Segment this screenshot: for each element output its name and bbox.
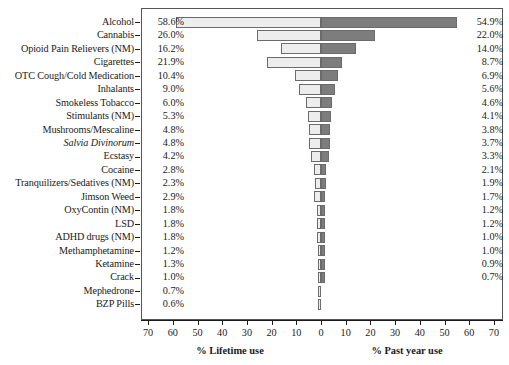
category-label: Ketamine — [0, 259, 134, 269]
bar-past-year-use — [321, 57, 342, 68]
lifetime-use-value: 1.3% — [142, 259, 184, 269]
lifetime-use-value: 1.8% — [142, 232, 184, 242]
category-tick — [135, 103, 140, 104]
category-tick — [135, 22, 140, 23]
lifetime-use-value: 4.8% — [142, 138, 184, 148]
past-year-use-value: 22.0% — [461, 30, 503, 40]
category-tick — [135, 237, 140, 238]
category-tick — [135, 62, 140, 63]
category-label: Cannabis — [0, 30, 134, 40]
category-label: Cocaine — [0, 165, 134, 175]
x-axis-tick — [321, 320, 322, 325]
past-year-use-value: 2.1% — [461, 165, 503, 175]
bar-lifetime-use — [176, 17, 321, 28]
bar-past-year-use — [321, 138, 330, 149]
past-year-use-value: 8.7% — [461, 57, 503, 67]
category-label: BZP Pills — [0, 299, 134, 309]
category-label: Mushrooms/Mescaline — [0, 125, 134, 135]
category-tick — [135, 76, 140, 77]
lifetime-use-value: 0.7% — [142, 286, 184, 296]
x-axis-tick — [296, 320, 297, 325]
x-axis-line — [141, 320, 503, 321]
bar-lifetime-use — [314, 164, 321, 175]
bar-lifetime-use — [295, 70, 321, 81]
bar-past-year-use — [321, 272, 325, 283]
category-label: Tranquilizers/Sedatives (NM) — [0, 178, 134, 188]
past-year-use-value: 4.1% — [461, 111, 503, 121]
bar-past-year-use — [321, 111, 331, 122]
past-year-use-value: 0.9% — [461, 259, 503, 269]
lifetime-use-value: 16.2% — [142, 44, 184, 54]
category-label: Methamphetamine — [0, 246, 134, 256]
category-tick — [135, 210, 140, 211]
category-axis-labels: AlcoholCannabisOpioid Pain Relievers (NM… — [0, 0, 134, 330]
category-tick — [135, 89, 140, 90]
category-tick — [135, 35, 140, 36]
category-label: Mephedrone — [0, 286, 134, 296]
lifetime-use-value: 2.8% — [142, 165, 184, 175]
category-tick — [135, 251, 140, 252]
category-label: Opioid Pain Relievers (NM) — [0, 44, 134, 54]
category-tick — [135, 49, 140, 50]
lifetime-use-value: 4.2% — [142, 151, 184, 161]
lifetime-use-value: 2.9% — [142, 192, 184, 202]
lifetime-use-value: 1.8% — [142, 205, 184, 215]
bar-lifetime-use — [311, 151, 321, 162]
lifetime-use-value: 1.8% — [142, 219, 184, 229]
x-axis-tick — [395, 320, 396, 325]
category-label: Alcohol — [0, 17, 134, 27]
lifetime-use-value: 26.0% — [142, 30, 184, 40]
x-axis-tick — [272, 320, 273, 325]
x-axis-title-left: % Lifetime use — [160, 345, 300, 357]
bar-lifetime-use — [309, 124, 321, 135]
category-tick — [135, 130, 140, 131]
category-label: Crack — [0, 272, 134, 282]
bar-past-year-use — [321, 232, 325, 243]
lifetime-use-value: 1.2% — [142, 246, 184, 256]
category-tick — [135, 291, 140, 292]
x-axis-tick — [445, 320, 446, 325]
category-tick — [135, 143, 140, 144]
past-year-use-value: 0.7% — [461, 272, 503, 282]
x-axis-title-right: % Past year use — [337, 345, 477, 357]
x-axis-tick — [198, 320, 199, 325]
bar-lifetime-use — [318, 286, 322, 297]
lifetime-use-value: 1.0% — [142, 272, 184, 282]
bar-past-year-use — [321, 259, 325, 270]
category-label: Smokeless Tobacco — [0, 98, 134, 108]
past-year-use-value: 1.7% — [461, 192, 503, 202]
past-year-use-value-labels: 54.9%22.0%14.0%8.7%6.9%5.6%4.6%4.1%3.8%3… — [461, 0, 503, 330]
past-year-use-value: 14.0% — [461, 44, 503, 54]
past-year-use-value: 5.6% — [461, 84, 503, 94]
lifetime-use-value: 9.0% — [142, 84, 184, 94]
past-year-use-value: 3.8% — [461, 125, 503, 135]
category-tick — [135, 197, 140, 198]
x-axis-tick — [469, 320, 470, 325]
bar-lifetime-use — [318, 299, 322, 310]
lifetime-use-value: 5.3% — [142, 111, 184, 121]
bar-lifetime-use — [314, 191, 321, 202]
category-label: Inhalants — [0, 84, 134, 94]
lifetime-use-value: 58.6% — [142, 17, 184, 27]
past-year-use-value: 1.0% — [461, 232, 503, 242]
bar-past-year-use — [321, 191, 325, 202]
past-year-use-value: 1.2% — [461, 205, 503, 215]
lifetime-use-value-labels: 58.6%26.0%16.2%21.9%10.4%9.0%6.0%5.3%4.8… — [142, 0, 184, 330]
lifetime-use-value: 10.4% — [142, 71, 184, 81]
bar-lifetime-use — [299, 84, 321, 95]
bar-past-year-use — [321, 164, 326, 175]
x-axis-tick — [420, 320, 421, 325]
bar-past-year-use — [321, 178, 326, 189]
lifetime-use-value: 0.6% — [142, 299, 184, 309]
lifetime-use-value: 21.9% — [142, 57, 184, 67]
x-axis-tick — [346, 320, 347, 325]
bar-past-year-use — [321, 70, 338, 81]
past-year-use-value: 1.0% — [461, 246, 503, 256]
category-label: LSD — [0, 219, 134, 229]
x-axis-tick — [148, 320, 149, 325]
category-label: OxyContin (NM) — [0, 205, 134, 215]
bar-past-year-use — [321, 218, 325, 229]
x-axis-tick — [247, 320, 248, 325]
category-tick — [135, 304, 140, 305]
category-label: Ecstasy — [0, 151, 134, 161]
